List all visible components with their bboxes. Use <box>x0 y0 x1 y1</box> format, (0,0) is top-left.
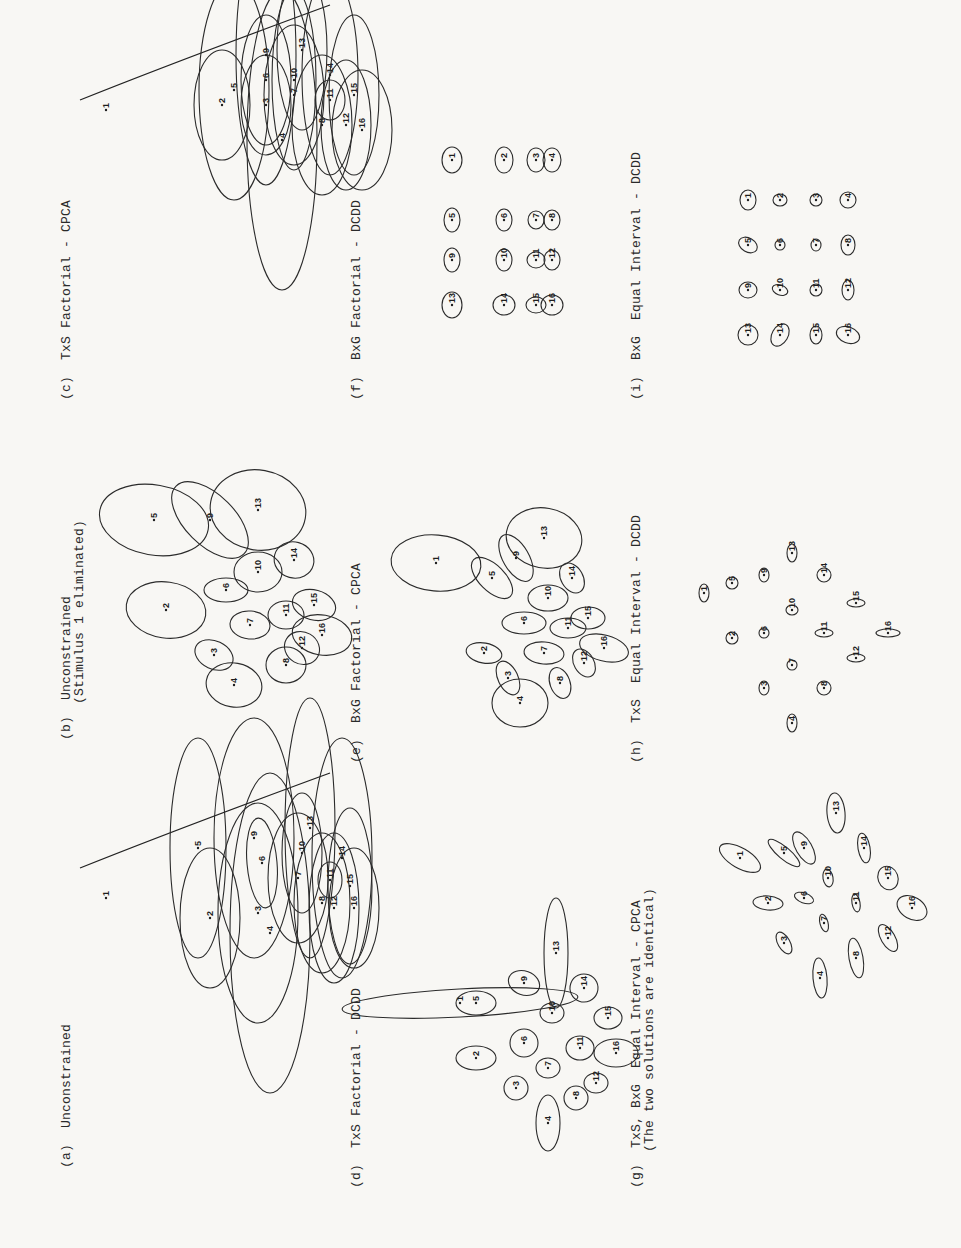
stimulus-label: 6 <box>759 626 769 631</box>
stimulus-label: 12 <box>843 278 853 288</box>
stimulus-point <box>911 907 913 909</box>
stimulus-point <box>855 657 857 659</box>
stimulus-label: 3 <box>503 671 513 676</box>
stimulus-point <box>285 614 287 616</box>
stimulus-point <box>783 852 785 854</box>
stimulus-label: 6 <box>499 213 509 218</box>
stimulus-label: 8 <box>851 951 861 956</box>
stimulus-point <box>823 574 825 576</box>
stimulus-point <box>543 537 545 539</box>
stimulus-point <box>575 1097 577 1099</box>
stimulus-point <box>823 632 825 634</box>
stimulus-label: 16 <box>843 323 853 333</box>
stimulus-label: 11 <box>811 278 821 288</box>
stimulus-label: 2 <box>205 911 215 916</box>
stimulus-point <box>763 632 765 634</box>
stimulus-label: 9 <box>799 841 809 846</box>
stimulus-point <box>345 124 347 126</box>
stimulus-point <box>233 89 235 91</box>
stimulus-label: 16 <box>599 636 609 646</box>
stimulus-point <box>783 942 785 944</box>
stimulus-point <box>435 562 437 564</box>
stimulus-point <box>551 304 553 306</box>
stimulus-point <box>559 682 561 684</box>
stimulus-point <box>595 1082 597 1084</box>
stimulus-label: 4 <box>265 926 275 931</box>
panel-c: (c) TxS Factorial - CPCA 125369471013811… <box>60 0 360 400</box>
stimulus-label: 7 <box>245 618 255 623</box>
stimulus-label: 8 <box>555 676 565 681</box>
stimulus-label: 8 <box>571 1091 581 1096</box>
stimulus-point <box>257 571 259 573</box>
stimulus-point <box>587 617 589 619</box>
stimulus-point <box>269 932 271 934</box>
stimulus-label: 12 <box>547 248 557 258</box>
stimulus-point <box>221 104 223 106</box>
stimulus-label: 13 <box>787 541 797 551</box>
stimulus-label: 9 <box>519 976 529 981</box>
stimulus-point <box>747 289 749 291</box>
stimulus-label: 10 <box>547 1001 557 1011</box>
panel-h-plot: 12536947101381114121516 <box>630 433 940 763</box>
stimulus-label: 10 <box>499 248 509 258</box>
stimulus-point <box>209 917 211 919</box>
stimulus-point <box>503 159 505 161</box>
rotated-figure-canvas: (a) Unconstrained 1253964710138111214151… <box>0 0 961 1248</box>
stimulus-point <box>803 897 805 899</box>
stimulus-label: 9 <box>205 513 215 518</box>
stimulus-label: 9 <box>249 831 259 836</box>
plot-layer: 2534967101381114121516 <box>94 462 355 711</box>
stimulus-point <box>863 847 865 849</box>
stimulus-label: 6 <box>519 1036 529 1041</box>
stimulus-label: 7 <box>787 658 797 663</box>
confidence-ellipse <box>236 0 296 185</box>
stimulus-point <box>739 857 741 859</box>
stimulus-label: 5 <box>193 841 203 846</box>
stimulus-label: 4 <box>515 696 525 701</box>
stimulus-label: 3 <box>209 648 219 653</box>
stimulus-label: 11 <box>819 621 829 631</box>
panel-h: (h) TxS Equal Interval - DCDD 1253694710… <box>630 433 940 763</box>
stimulus-label: 11 <box>531 248 541 258</box>
stimulus-point <box>535 259 537 261</box>
stimulus-point <box>451 304 453 306</box>
stimulus-label: 6 <box>221 583 231 588</box>
stimulus-point <box>535 304 537 306</box>
stimulus-label: 7 <box>293 871 303 876</box>
stimulus-point <box>265 54 267 56</box>
stimulus-label: 3 <box>811 193 821 198</box>
stimulus-point <box>233 684 235 686</box>
stimulus-point <box>823 687 825 689</box>
stimulus-label: 13 <box>743 323 753 333</box>
stimulus-point <box>855 602 857 604</box>
stimulus-label: 14 <box>567 566 577 576</box>
stimulus-label: 3 <box>759 681 769 686</box>
stimulus-label: 11 <box>281 603 291 613</box>
stimulus-label: 11 <box>851 891 861 901</box>
stimulus-point <box>503 259 505 261</box>
stimulus-label: 6 <box>519 616 529 621</box>
stimulus-point <box>819 977 821 979</box>
stimulus-point <box>731 637 733 639</box>
stimulus-point <box>823 922 825 924</box>
stimulus-point <box>475 1002 477 1004</box>
stimulus-label: 2 <box>727 631 737 636</box>
stimulus-point <box>835 812 837 814</box>
stimulus-label: 2 <box>161 603 171 608</box>
plot-layer: 12345678910111213141516 <box>442 147 563 318</box>
stimulus-label: 1 <box>431 556 441 561</box>
stimulus-label: 12 <box>591 1071 601 1081</box>
stimulus-point <box>503 304 505 306</box>
panel-a: (a) Unconstrained 1253964710138111214151… <box>60 768 360 1168</box>
panel-g-plot: 12536947101381114121516 <box>630 768 940 1188</box>
stimulus-point <box>731 582 733 584</box>
stimulus-label: 4 <box>543 1116 553 1121</box>
stimulus-label: 13 <box>831 801 841 811</box>
stimulus-label: 14 <box>579 976 589 986</box>
stimulus-label: 12 <box>883 926 893 936</box>
stimulus-label: 5 <box>447 213 457 218</box>
stimulus-point <box>451 259 453 261</box>
stimulus-label: 10 <box>289 68 299 78</box>
stimulus-point <box>803 847 805 849</box>
stimulus-point <box>507 677 509 679</box>
